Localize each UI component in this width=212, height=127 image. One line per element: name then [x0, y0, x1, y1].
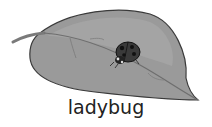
caption-label: ladybug [0, 96, 212, 118]
